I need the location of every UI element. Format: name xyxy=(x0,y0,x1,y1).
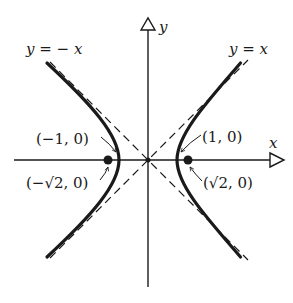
y-axis-arrowhead-icon xyxy=(141,18,155,30)
origin-dot xyxy=(146,158,151,163)
y-axis-label: y xyxy=(158,18,168,36)
point-label-1-0: (1, 0) xyxy=(202,128,242,146)
focus-right-dot xyxy=(184,156,193,165)
x-axis-arrowhead-icon xyxy=(270,153,284,167)
asymptote-label-x: y = x xyxy=(228,40,269,58)
asymptote-label-neg-x: y = − x xyxy=(25,40,83,58)
pointer-arrow-sqrt2 xyxy=(190,167,202,181)
y-axis: y xyxy=(141,18,168,287)
x-axis-label: x xyxy=(269,134,278,152)
pointer-arrow-neg-sqrt2 xyxy=(100,167,108,180)
hyperbola-diagram: x y y = − x y = x (−1, 0) (1, 0) (−√2, 0… xyxy=(0,0,293,303)
point-label-neg1-0: (−1, 0) xyxy=(36,130,89,148)
point-label-neg-sqrt2-0: (−√2, 0) xyxy=(26,174,88,192)
point-label-sqrt2-0: (√2, 0) xyxy=(203,174,253,192)
focus-left-dot xyxy=(104,156,113,165)
